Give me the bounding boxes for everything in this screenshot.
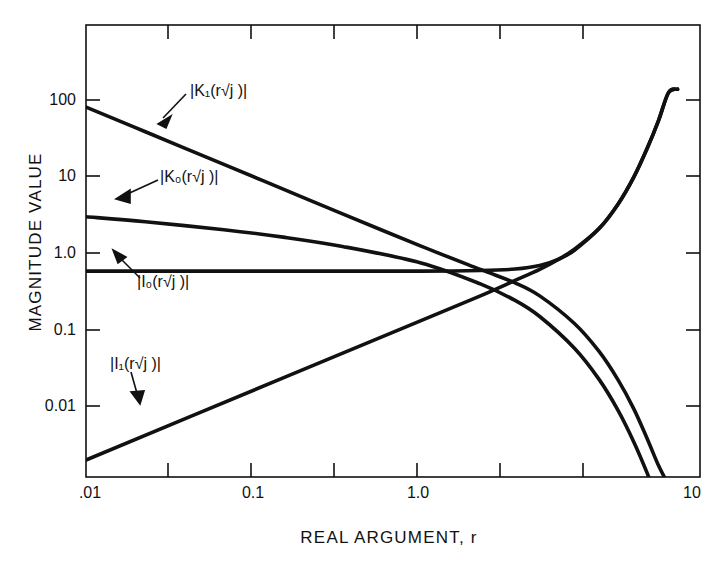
x-axis-top-ticks xyxy=(168,25,583,39)
plot-frame xyxy=(86,25,700,477)
curve--k0-r-sqrt-j- xyxy=(86,217,669,530)
arrow-k0 xyxy=(116,180,158,203)
arrow-i0 xyxy=(113,250,140,278)
data-curves xyxy=(86,89,678,530)
annotation-arrows xyxy=(113,94,186,404)
curve--i0-r-sqrt-j- xyxy=(86,89,678,271)
figure-bessel-magnitude: MAGNITUDE VALUE 100 10 1.0 0.1 0.01 .01 … xyxy=(0,0,720,567)
curve--k1-r-sqrt-j- xyxy=(86,107,669,486)
plot-canvas xyxy=(0,0,720,567)
arrow-k1 xyxy=(158,94,186,128)
y-axis-ticks xyxy=(86,100,100,406)
arrow-i1 xyxy=(131,372,144,404)
x-axis-ticks xyxy=(168,463,583,477)
y-axis-right-ticks xyxy=(686,100,700,406)
